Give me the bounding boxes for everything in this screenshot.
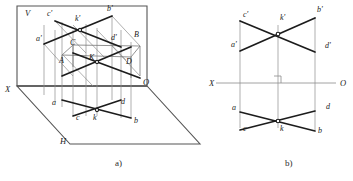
- figure-root: V H X O c' k' b' a' d' B C K A D a d c k…: [0, 0, 353, 181]
- label-plane-h: H: [59, 136, 67, 146]
- label-a-k-prime: k': [75, 14, 81, 23]
- label-a-b-low: b: [134, 116, 138, 125]
- label-a-k-low: k: [93, 113, 97, 122]
- point-K-marker: [95, 60, 98, 63]
- label-a-D-cap: D: [125, 57, 132, 66]
- label-axis-o-a: O: [143, 77, 149, 87]
- h-plane-frame: [17, 86, 200, 144]
- label-b-a-prime: a': [231, 40, 237, 49]
- diagram-b: X O c' k' b' a' d' a d c k b: [208, 5, 346, 135]
- diagram-a: V H X O c' k' b' a' d' B C K A D a d c k…: [4, 4, 200, 146]
- label-b-d-prime: d': [325, 41, 331, 50]
- label-a-a-low: a: [52, 98, 56, 107]
- label-plane-v: V: [25, 8, 32, 18]
- line-c-prime-d-prime-b: [240, 21, 315, 52]
- label-b-d-low: d: [326, 102, 331, 111]
- label-b-a-low: a: [232, 103, 236, 112]
- caption-b: b): [285, 158, 293, 168]
- label-a-A-cap: A: [58, 56, 64, 65]
- label-a-d-low: d: [121, 97, 126, 106]
- label-b-k-prime: k': [280, 13, 286, 22]
- label-a-a-prime: a': [36, 34, 42, 43]
- point-k-marker-b: [276, 119, 280, 123]
- label-a-c-low: c: [76, 113, 80, 122]
- depth-connector-lines-a: [44, 16, 140, 86]
- projector-lines-a: [44, 16, 131, 118]
- label-axis-o-b: O: [340, 78, 346, 88]
- right-angle-mark: [274, 76, 281, 83]
- label-axis-x-a: X: [4, 84, 11, 94]
- label-b-c-low: c: [243, 124, 247, 133]
- technical-drawing-canvas: V H X O c' k' b' a' d' B C K A D a d c k…: [0, 0, 353, 181]
- label-axis-x-b: X: [208, 78, 215, 88]
- label-b-c-prime: c': [243, 10, 249, 19]
- point-k-marker: [95, 108, 98, 111]
- label-a-d-prime: d': [111, 33, 117, 42]
- point-k-prime-marker: [78, 28, 81, 31]
- label-a-b-prime: b': [107, 4, 113, 13]
- label-b-k-low: k: [280, 124, 284, 133]
- caption-a: a): [115, 158, 122, 168]
- label-b-b-prime: b': [317, 5, 323, 14]
- label-a-K-cap: K: [88, 53, 95, 62]
- label-b-b-low: b: [318, 126, 322, 135]
- label-a-c-prime: c': [47, 9, 53, 18]
- label-a-C-cap: C: [70, 38, 76, 47]
- frontal-projection-lines-a: [44, 16, 121, 47]
- label-a-B-cap: B: [134, 30, 139, 39]
- point-k-prime-marker-b: [276, 32, 280, 36]
